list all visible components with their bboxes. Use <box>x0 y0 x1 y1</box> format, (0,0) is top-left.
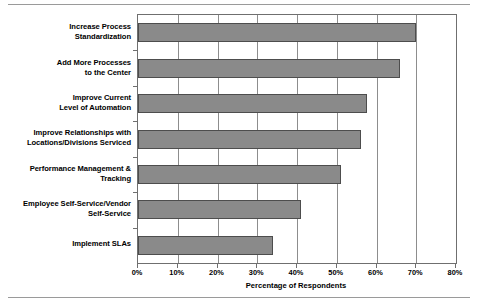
bar <box>138 200 301 219</box>
category-tick <box>133 228 138 229</box>
bar <box>138 59 400 78</box>
x-tick-label-0: 0% <box>117 268 157 277</box>
bar <box>138 130 361 149</box>
bar <box>138 94 367 113</box>
x-tick-label-50: 50% <box>316 268 356 277</box>
x-axis-title: Percentage of Respondents <box>137 281 455 290</box>
category-tick <box>133 192 138 193</box>
category-label: Add More Processes to the Center <box>4 58 131 77</box>
top-divider-rule <box>8 4 470 5</box>
x-tick-label-20: 20% <box>197 268 237 277</box>
category-label: Increase Process Standardization <box>4 22 131 41</box>
plot-area <box>137 14 457 264</box>
x-tick-label-30: 30% <box>236 268 276 277</box>
bar <box>138 165 341 184</box>
category-label: Improve Relationships with Locations/Div… <box>4 128 131 147</box>
x-axis-tick-labels: 0%10%20%30%40%50%60%70%80% <box>0 268 478 280</box>
bar <box>138 23 416 42</box>
bottom-divider-rule <box>8 297 470 298</box>
category-tick <box>133 121 138 122</box>
plot-inner <box>138 15 456 263</box>
category-label-column: Increase Process StandardizationAdd More… <box>4 14 135 262</box>
bar-chart-figure: Increase Process StandardizationAdd More… <box>0 0 478 308</box>
x-tick-label-80: 80% <box>435 268 475 277</box>
bar <box>138 236 273 255</box>
category-tick <box>133 50 138 51</box>
x-tick-label-70: 70% <box>395 268 435 277</box>
x-tick-label-10: 10% <box>157 268 197 277</box>
category-label: Improve Current Level of Automation <box>4 93 131 112</box>
gridline-70 <box>416 15 417 263</box>
gridline-60 <box>377 15 378 263</box>
category-tick <box>133 86 138 87</box>
category-label: Employee Self-Service/Vendor Self-Servic… <box>4 199 131 218</box>
x-tick-label-60: 60% <box>356 268 396 277</box>
category-tick <box>133 157 138 158</box>
category-label: Implement SLAs <box>4 239 131 249</box>
category-label: Performance Management & Tracking <box>4 164 131 183</box>
x-tick-label-40: 40% <box>276 268 316 277</box>
